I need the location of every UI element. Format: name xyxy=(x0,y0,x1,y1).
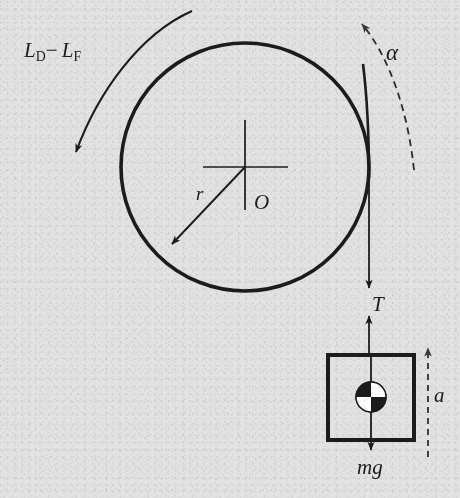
torque-label: LD− LF xyxy=(24,38,81,65)
torque-arc-arrow xyxy=(76,11,192,152)
radius-label: r xyxy=(196,183,203,205)
physics-diagram-figure: LD− LF α r O T mg a xyxy=(0,0,460,498)
tension-label: T xyxy=(372,292,384,317)
linear-acceleration-label: a xyxy=(434,383,445,408)
radius-arrow xyxy=(172,167,245,244)
center-of-mass-icon xyxy=(356,382,386,412)
string-line xyxy=(363,64,369,178)
torque-subscript-d: D xyxy=(36,49,46,64)
torque-minus-operator: − xyxy=(46,38,58,62)
torque-base-symbol: L xyxy=(24,38,36,62)
diagram-vector-layer xyxy=(0,0,460,498)
torque-subscript-f: F xyxy=(73,49,81,64)
origin-label: O xyxy=(254,190,269,215)
torque-base-symbol-2: L xyxy=(62,38,74,62)
angular-acceleration-label: α xyxy=(386,40,398,66)
weight-label: mg xyxy=(357,455,383,480)
